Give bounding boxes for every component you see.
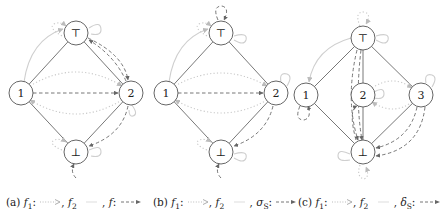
node-1: 1 [9, 81, 33, 105]
panel-a: ⊤ 1 2 ⊥ [9, 21, 143, 178]
svg-text:3: 3 [418, 89, 425, 102]
svg-text:⊤: ⊤ [216, 27, 226, 40]
legend-dashed-arrow-icon [419, 199, 441, 205]
svg-text:⊤: ⊤ [358, 32, 368, 45]
panel-c: ⊤ 1 2 3 ⊥ [294, 12, 435, 179]
svg-text:⊥: ⊥ [358, 146, 368, 159]
legend-solid-light-arrow-icon [228, 199, 250, 205]
legend-dotted-arrow-icon [187, 199, 209, 205]
svg-text:⊤: ⊤ [71, 27, 81, 40]
node-1: 1 [294, 83, 318, 107]
lattice-diagrams: ⊤ 1 2 ⊥ ⊤ 1 2 ⊥ [0, 0, 441, 215]
svg-text:⊥: ⊥ [71, 146, 81, 159]
legend-dashed-arrow-icon [120, 199, 142, 205]
legend-dotted-arrow-icon [39, 199, 61, 205]
caption-b: (b) f1: , f2 , σS: [153, 196, 297, 213]
node-top: ⊤ [209, 21, 233, 45]
svg-text:2: 2 [128, 87, 135, 100]
node-3: 3 [409, 83, 433, 107]
svg-text:⊥: ⊥ [216, 146, 226, 159]
legend-dotted-arrow-icon [331, 199, 353, 205]
svg-text:1: 1 [163, 87, 170, 100]
node-bot: ⊥ [209, 140, 233, 164]
node-top: ⊤ [64, 21, 88, 45]
legend-dashed-arrow-icon [275, 199, 297, 205]
node-bot: ⊥ [64, 140, 88, 164]
node-2: 2 [264, 81, 288, 105]
node-2: 2 [351, 83, 375, 107]
caption-a: (a) f1: , f2 , f: [6, 196, 142, 213]
legend-solid-light-arrow-icon [372, 199, 394, 205]
node-bot: ⊥ [351, 140, 375, 164]
caption-c: (c) f1: , f2 , δS: [298, 196, 441, 213]
svg-text:2: 2 [273, 87, 280, 100]
panel-b: ⊤ 1 2 ⊥ [154, 6, 290, 178]
legend-solid-light-arrow-icon [80, 199, 102, 205]
svg-text:1: 1 [303, 89, 310, 102]
node-1: 1 [154, 81, 178, 105]
svg-text:1: 1 [18, 87, 25, 100]
svg-text:2: 2 [360, 89, 367, 102]
node-top: ⊤ [351, 26, 375, 50]
node-2: 2 [119, 81, 143, 105]
